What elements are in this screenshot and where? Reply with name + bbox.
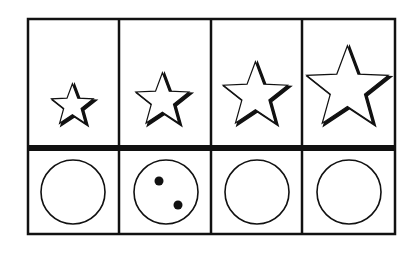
pattern-grid-diagram [0, 0, 419, 257]
dot-icon [174, 201, 183, 210]
grid-frame [28, 19, 395, 234]
dot-icon [155, 177, 164, 186]
